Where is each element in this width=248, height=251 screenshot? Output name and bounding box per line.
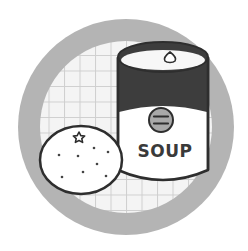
orange-icon	[40, 126, 122, 194]
can-label-text: SOUP	[138, 141, 193, 161]
can-badge	[149, 108, 173, 132]
illustration-canvas: SOUP	[0, 0, 248, 251]
soup-illustration: SOUP	[0, 0, 248, 251]
soup-can-icon: SOUP	[118, 42, 208, 180]
